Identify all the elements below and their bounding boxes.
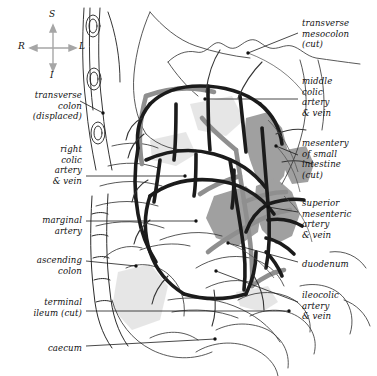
- leader-dot-transverse-mesocolon: [246, 51, 249, 54]
- label-ascending-colon: ascending colon: [4, 255, 82, 276]
- label-terminal-ileum: terminal ileum (cut): [4, 297, 82, 318]
- leader-dot-duodenum: [226, 241, 229, 244]
- leader-dot-right-colic: [183, 174, 186, 177]
- label-superior-mesenteric: superior mesenteric artery & vein: [302, 198, 377, 240]
- leader-ascending-colon: [86, 261, 136, 266]
- leader-dot-transverse-colon: [101, 111, 104, 114]
- compass-label-left: L: [79, 41, 85, 51]
- label-transverse-mesocolon: transverse mesocolon (cut): [302, 18, 377, 50]
- leader-dot-caecum: [213, 337, 216, 340]
- anatomy-figure: S I R L transverse colon (displaced)righ…: [0, 0, 377, 376]
- label-middle-colic: middle colic artery & vein: [302, 76, 377, 118]
- leader-dot-marginal-artery: [194, 219, 197, 222]
- leader-transverse-mesocolon: [248, 33, 298, 53]
- label-marginal-artery: marginal artery: [8, 215, 82, 236]
- leader-dot-mesentery-small-intestine: [274, 144, 277, 147]
- leader-duodenum: [228, 243, 298, 262]
- label-transverse-colon: transverse colon (displaced): [4, 90, 82, 122]
- leader-dot-terminal-ileum: [287, 309, 290, 312]
- compass-cross: [30, 25, 76, 71]
- label-caecum: caecum: [8, 343, 82, 354]
- leader-dot-ileocolic: [214, 269, 217, 272]
- label-ileocolic: ileocolic artery & vein: [302, 290, 377, 322]
- leader-caecum: [86, 339, 215, 346]
- compass-label-superior: S: [49, 9, 55, 19]
- label-duodenum: duodenum: [302, 259, 377, 270]
- leader-dot-ascending-colon: [134, 264, 137, 267]
- leader-dot-middle-colic: [203, 97, 206, 100]
- label-right-colic: right colic artery & vein: [8, 144, 82, 186]
- leader-dot-superior-mesenteric: [266, 205, 269, 208]
- compass-label-inferior: I: [50, 70, 54, 80]
- compass-label-right: R: [18, 41, 25, 51]
- label-mesentery-small-intestine: mesentery of small intestine (cut): [302, 138, 377, 180]
- leader-transverse-colon: [80, 101, 103, 113]
